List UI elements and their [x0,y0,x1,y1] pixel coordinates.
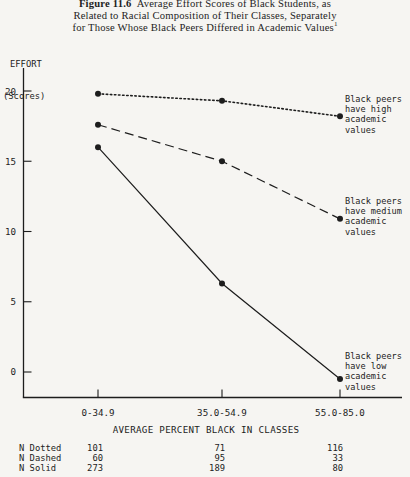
table-cell: 95 [183,453,225,463]
table-cell: 189 [183,463,225,473]
row-label: N Dashed [19,453,61,463]
table-cell: 273 [61,463,103,473]
table-cell: 60 [61,453,103,463]
x-tick-label-3: 55.0-85.0 [295,407,385,418]
row-label: N Dotted [19,443,61,453]
table-row: N Solid 273 189 80 [0,463,410,473]
x-axis-title: AVERAGE PERCENT BLACK IN CLASSES [16,424,396,435]
table-cell: 33 [301,453,343,463]
series-label-high: Black peers have high academic values [345,94,402,135]
table-cell: 116 [301,443,343,453]
y-tick-label-5: 5 [0,297,16,307]
x-tick-label-2: 35.0-54.9 [177,407,267,418]
series-label-low: Black peers have low academic values [345,351,402,392]
x-tick-label-1: 0-34.9 [53,407,143,418]
y-tick-label-0: 0 [0,367,16,377]
y-tick-label-20: 20 [0,87,16,97]
table-row: N Dashed 60 95 33 [0,453,410,463]
row-label: N Solid [19,463,56,473]
y-tick-label-15: 15 [0,157,16,167]
table-cell: 80 [301,463,343,473]
table-row: N Dotted 101 71 116 [0,443,410,453]
chart-canvas [0,0,410,477]
series-label-medium: Black peers have medium academic values [345,196,402,237]
table-cell: 101 [61,443,103,453]
y-tick-label-10: 10 [0,227,16,237]
table-cell: 71 [183,443,225,453]
